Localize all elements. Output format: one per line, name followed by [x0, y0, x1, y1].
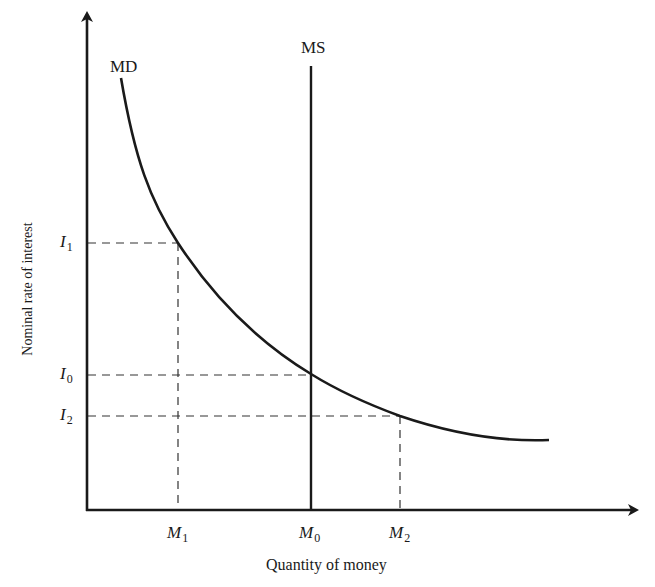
x-tick-sub: 1 [182, 531, 188, 545]
y-axis-title: Nominal rate of interest [20, 204, 36, 374]
x-tick-main: M [389, 523, 403, 542]
y-tick-i2: I2 [60, 406, 73, 423]
x-axis-title: Quantity of money [266, 556, 387, 574]
y-tick-main: I [60, 232, 66, 251]
y-tick-i0: I0 [60, 365, 73, 382]
y-tick-main: I [60, 405, 66, 424]
x-tick-m2: M2 [389, 524, 410, 541]
y-tick-sub: 1 [67, 240, 73, 254]
md-label: MD [110, 58, 137, 75]
x-tick-main: M [299, 523, 313, 542]
x-tick-main: M [167, 523, 181, 542]
y-tick-sub: 2 [67, 413, 73, 427]
axes [86, 16, 634, 511]
x-tick-sub: 0 [314, 531, 320, 545]
md-curve [121, 78, 549, 440]
guide-lines [88, 243, 400, 510]
x-tick-m1: M1 [167, 524, 188, 541]
y-tick-i1: I1 [60, 233, 73, 250]
money-market-diagram [0, 0, 655, 587]
y-tick-sub: 0 [67, 372, 73, 386]
y-tick-main: I [60, 364, 66, 383]
ms-label: MS [301, 39, 326, 56]
x-tick-m0: M0 [299, 524, 320, 541]
x-tick-sub: 2 [404, 531, 410, 545]
